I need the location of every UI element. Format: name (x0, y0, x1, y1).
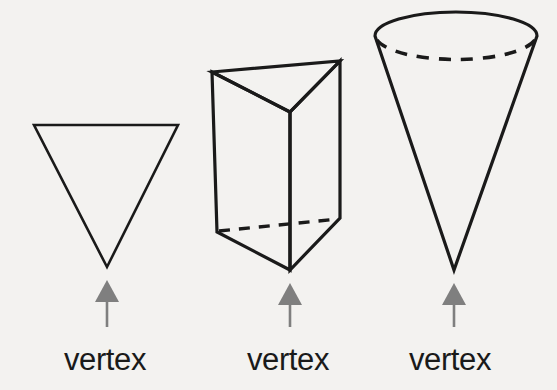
prism-top-face (212, 61, 340, 112)
label-vertex-triangle: vertex (64, 344, 146, 375)
prism-right-face (290, 61, 340, 270)
label-vertex-cone: vertex (409, 344, 491, 375)
geometry-figure: vertex vertex vertex (0, 0, 557, 390)
arrow-prism-head (278, 283, 302, 305)
arrow-cone-head (442, 283, 466, 305)
triangle-outline (34, 125, 178, 267)
label-vertex-prism: vertex (247, 344, 329, 375)
arrow-triangle (95, 280, 119, 327)
prism-hidden-base-edge (219, 219, 338, 231)
triangular-prism-shape (212, 61, 340, 270)
triangle-shape (34, 125, 178, 267)
prism-left-face (212, 72, 290, 270)
arrow-cone (442, 283, 466, 327)
cone-shape (375, 12, 537, 270)
cone-rim-hidden-arc (377, 40, 535, 59)
figure-canvas (0, 0, 557, 390)
arrow-triangle-head (95, 280, 119, 302)
arrow-prism (278, 283, 302, 327)
